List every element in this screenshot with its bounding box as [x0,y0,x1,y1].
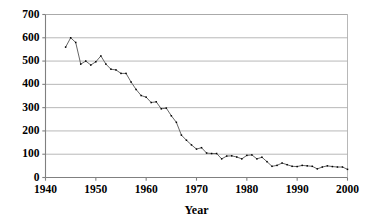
data-point-marker [291,166,293,168]
data-point-marker [266,161,268,163]
data-point-marker [327,165,329,167]
data-point-marker [171,115,173,117]
data-point-marker [306,165,308,167]
x-axis-tick-label: 1960 [135,183,158,195]
data-point-marker [246,155,248,157]
y-axis-tick-label: 300 [22,101,40,113]
chart-container: 0100200300400500600700 19401950196019701… [0,0,372,222]
x-axis-tick-label: 1970 [185,183,208,195]
data-point-marker [241,158,243,160]
data-point-marker [115,69,117,71]
line-chart: 0100200300400500600700 19401950196019701… [0,0,372,222]
data-point-marker [322,166,324,168]
data-point-marker [301,165,303,167]
data-point-marker [95,61,97,63]
x-axis-tick-label: 1940 [34,183,57,195]
data-point-marker [256,158,258,160]
data-point-marker [65,46,67,48]
x-axis-tick-label: 2000 [336,183,359,195]
data-point-marker [216,153,218,155]
data-point-marker [100,55,102,57]
data-point-marker [176,122,178,124]
y-axis-tick-label: 100 [22,147,40,159]
data-point-marker [75,42,77,44]
data-point-marker [166,107,168,109]
data-point-marker [261,156,263,158]
data-point-marker [281,162,283,164]
data-point-marker [145,96,147,98]
data-point-marker [251,154,253,156]
y-axis-tick-label: 400 [22,77,40,89]
x-axis-tick-labels: 1940195019601970198019902000 [34,183,359,195]
data-point-marker [150,102,152,104]
data-point-marker [85,60,87,62]
data-point-marker [312,166,314,168]
data-point-marker [211,153,213,155]
y-axis-tick-label: 600 [22,31,40,43]
data-point-marker [191,144,193,146]
data-point-marker [120,73,122,75]
data-point-marker [231,155,233,157]
data-point-marker [317,168,319,170]
data-point-marker [286,164,288,166]
data-point-marker [140,95,142,97]
data-series-line [66,38,348,170]
x-axis-title: Year [185,203,210,217]
y-axis-tick-label: 500 [22,54,40,66]
data-point-marker [347,169,349,171]
x-axis-tick-label: 1950 [84,183,107,195]
tick-marks [42,15,347,181]
axis-lines [46,15,348,178]
data-point-markers [65,37,348,170]
data-point-marker [271,166,273,168]
data-point-marker [80,63,82,65]
x-axis-tick-label: 1980 [235,183,258,195]
data-point-marker [226,155,228,157]
y-axis-tick-label: 700 [22,8,40,20]
data-point-marker [337,166,339,168]
data-point-marker [296,166,298,168]
x-axis-tick-label: 1990 [286,183,309,195]
data-point-marker [155,101,157,103]
y-axis-tick-label: 0 [34,171,40,183]
data-point-marker [186,139,188,141]
data-point-marker [332,166,334,168]
data-point-marker [161,108,163,110]
data-point-marker [90,64,92,66]
data-point-marker [201,147,203,149]
grid-lines [46,15,348,155]
data-point-marker [70,37,72,39]
data-point-marker [125,73,127,75]
data-point-marker [221,158,223,160]
data-point-marker [181,134,183,136]
data-point-marker [342,166,344,168]
data-point-marker [105,63,107,65]
data-point-marker [196,148,198,150]
data-point-marker [110,68,112,70]
data-point-marker [276,165,278,167]
data-point-marker [206,152,208,154]
data-point-marker [135,89,137,91]
data-point-marker [130,81,132,83]
y-axis-tick-label: 200 [22,124,40,136]
data-point-marker [236,156,238,158]
y-axis-tick-labels: 0100200300400500600700 [22,8,40,183]
